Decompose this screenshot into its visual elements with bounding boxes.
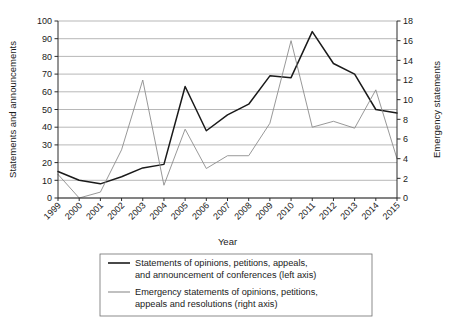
y2-tick-label: 4 <box>403 154 408 164</box>
y-tick-label: 60 <box>42 87 52 97</box>
x-axis-ticks-group: 1999200020012002200320042005200620072008… <box>42 198 402 222</box>
x-tick-label: 2008 <box>232 200 253 221</box>
y-tick-label: 30 <box>42 140 52 150</box>
legend-label-2-cont: appeals and resolutions (right axis) <box>135 299 277 309</box>
y-tick-label: 0 <box>47 193 52 203</box>
x-tick-label: 2009 <box>254 200 275 221</box>
y2-axis-ticks-group: 024681012141618 <box>397 16 413 203</box>
y-axis-ticks-group: 0102030405060708090100 <box>37 16 58 203</box>
series-line-1 <box>58 32 397 184</box>
x-tick-label: 2007 <box>211 200 232 221</box>
y2-tick-label: 12 <box>403 75 413 85</box>
y-tick-label: 80 <box>42 52 52 62</box>
y-axis-title: Statements and announcements <box>7 41 18 178</box>
legend: Statements of opinions, petitions, appea… <box>100 254 372 316</box>
y2-tick-label: 8 <box>403 115 408 125</box>
y-tick-label: 40 <box>42 122 52 132</box>
y-tick-label: 20 <box>42 158 52 168</box>
y2-tick-label: 2 <box>403 174 408 184</box>
y2-tick-label: 0 <box>403 193 408 203</box>
y-tick-label: 90 <box>42 34 52 44</box>
x-tick-label: 2006 <box>190 200 211 221</box>
x-tick-label: 2014 <box>359 200 380 221</box>
x-tick-label: 2005 <box>169 200 190 221</box>
y2-tick-label: 6 <box>403 134 408 144</box>
x-tick-label: 2002 <box>105 200 126 221</box>
x-tick-label: 2003 <box>126 200 147 221</box>
chart-container: 0102030405060708090100 024681012141618 1… <box>0 0 452 327</box>
x-axis-title: Year <box>218 236 237 247</box>
line-chart: 0102030405060708090100 024681012141618 1… <box>0 0 452 327</box>
y2-tick-label: 18 <box>403 16 413 26</box>
gridlines-group <box>58 21 397 198</box>
x-tick-label: 2015 <box>381 200 402 221</box>
y2-tick-label: 14 <box>403 56 413 66</box>
y-tick-label: 10 <box>42 176 52 186</box>
y2-tick-label: 10 <box>403 95 413 105</box>
y-tick-label: 50 <box>42 105 52 115</box>
x-tick-label: 2013 <box>338 200 359 221</box>
y-tick-label: 100 <box>37 16 52 26</box>
x-tick-label: 2001 <box>84 200 105 221</box>
legend-label-1: Statements of opinions, petitions, appea… <box>135 258 308 268</box>
y2-tick-label: 16 <box>403 36 413 46</box>
x-tick-label: 1999 <box>42 200 63 221</box>
x-tick-label: 2010 <box>275 200 296 221</box>
y2-axis-title: Emergency statements <box>431 61 442 158</box>
legend-label-1-cont: and announcement of conferences (left ax… <box>135 270 316 280</box>
x-tick-label: 2012 <box>317 200 338 221</box>
x-tick-label: 2004 <box>148 200 169 221</box>
legend-label-2: Emergency statements of opinions, petiti… <box>135 287 318 297</box>
series-line-2 <box>58 41 397 198</box>
x-tick-label: 2011 <box>296 200 317 221</box>
x-tick-label: 2000 <box>63 200 84 221</box>
y-tick-label: 70 <box>42 69 52 79</box>
